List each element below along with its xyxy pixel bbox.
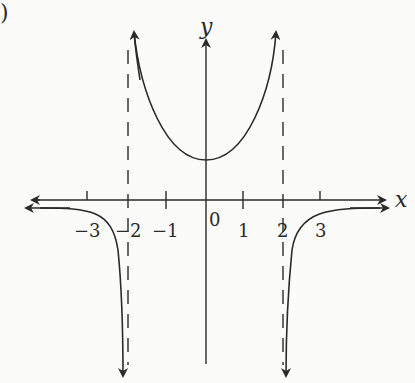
tick-label-neg3: −3: [74, 220, 101, 241]
tick-label-0: 0: [209, 209, 220, 230]
tick-label-3: 3: [315, 220, 326, 241]
x-tick-labels: −3 −2 −1 0 1 2 3: [74, 209, 326, 241]
curve-right-branch: [286, 208, 380, 376]
curve-middle-branch: [134, 32, 276, 160]
y-axis-label: y: [199, 14, 213, 39]
graph: ) x y −3 −2 −1 0 1 2 3: [0, 0, 415, 383]
tick-label-neg1: −1: [152, 220, 179, 241]
corner-parenthesis: ): [0, 0, 9, 25]
x-axis-label: x: [395, 187, 408, 212]
tick-label-1: 1: [238, 220, 249, 241]
